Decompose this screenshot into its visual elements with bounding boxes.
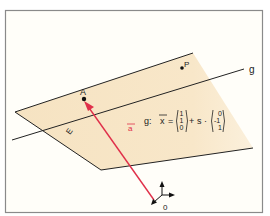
direction-component-1: 0	[218, 110, 222, 117]
equation-dot: ·	[204, 116, 207, 126]
origin-label: 0	[163, 203, 168, 212]
equation-prefix: g:	[144, 116, 152, 126]
vector-a-label: a	[128, 124, 133, 133]
point-a	[82, 97, 86, 101]
line-g-label: g	[249, 64, 255, 75]
direction-component-3: 1	[218, 124, 222, 131]
support-component-3: 0	[180, 124, 184, 131]
direction-component-2: -1	[214, 117, 220, 124]
vector-geometry-figure: g E P a A 0 g: x = 1 1 0 + s · 0	[0, 0, 270, 216]
support-component-1: 1	[180, 110, 184, 117]
support-component-2: 1	[180, 117, 184, 124]
equation-variable: x	[160, 116, 165, 126]
point-a-label: A	[80, 87, 86, 97]
equation-equals: =	[168, 116, 173, 126]
equation-plus: +	[189, 116, 194, 126]
equation-parameter: s	[197, 116, 202, 126]
point-p-label: P	[184, 60, 189, 69]
